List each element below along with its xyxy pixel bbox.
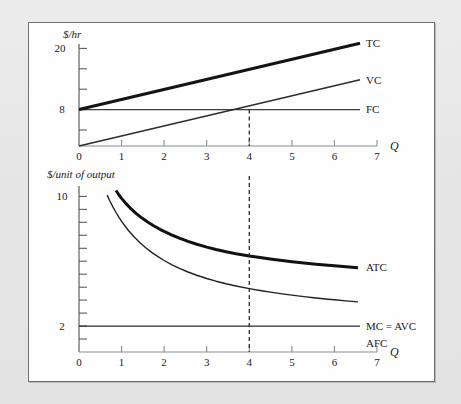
series-afc-curve bbox=[107, 195, 358, 302]
top-xtick-6: 6 bbox=[332, 150, 338, 162]
series-label-afc: AFC bbox=[366, 337, 387, 349]
cost-curves-figure: $/hr 20 8 0 1 2 3 4 bbox=[0, 0, 461, 404]
bottom-xtick-1: 1 bbox=[119, 356, 125, 368]
series-label-vc: VC bbox=[366, 74, 381, 86]
top-xtick-4: 4 bbox=[247, 150, 253, 162]
top-xtick-7: 7 bbox=[374, 150, 380, 162]
series-label-fc: FC bbox=[366, 103, 379, 115]
top-chart-y-ticks bbox=[79, 48, 87, 130]
bottom-chart-y-ticks bbox=[79, 196, 87, 339]
series-label-mc-avc: MC = AVC bbox=[366, 320, 416, 332]
top-xtick-3: 3 bbox=[204, 150, 210, 162]
series-label-tc: TC bbox=[366, 37, 380, 49]
bottom-xtick-5: 5 bbox=[289, 356, 295, 368]
bottom-chart-ytick-2: 2 bbox=[59, 320, 65, 332]
bottom-chart-xtick-labels: 0 1 2 3 4 5 6 7 bbox=[76, 356, 380, 368]
top-chart-ytick-8: 8 bbox=[59, 103, 65, 115]
bottom-chart-xlabel: Q bbox=[390, 345, 399, 359]
top-chart-xlabel: Q bbox=[390, 139, 399, 153]
bottom-xtick-2: 2 bbox=[161, 356, 167, 368]
top-xtick-2: 2 bbox=[161, 150, 167, 162]
bottom-xtick-7: 7 bbox=[374, 356, 380, 368]
bottom-xtick-6: 6 bbox=[332, 356, 338, 368]
series-vc-line bbox=[79, 80, 360, 146]
top-chart-xtick-labels: 0 1 2 3 4 5 6 7 bbox=[76, 150, 380, 162]
top-xtick-1: 1 bbox=[119, 150, 125, 162]
series-label-atc: ATC bbox=[366, 261, 387, 273]
bottom-xtick-0: 0 bbox=[76, 356, 82, 368]
top-xtick-5: 5 bbox=[289, 150, 295, 162]
chart-total-cost: $/hr 20 8 0 1 2 3 4 bbox=[55, 28, 400, 162]
bottom-chart-ytick-10: 10 bbox=[57, 190, 69, 202]
series-atc-curve bbox=[116, 191, 358, 268]
bottom-chart-ylabel: $/unit of output bbox=[47, 168, 116, 180]
chart-average-cost: $/unit of output 10 2 bbox=[47, 168, 416, 368]
bottom-xtick-3: 3 bbox=[204, 356, 210, 368]
bottom-xtick-4: 4 bbox=[247, 356, 253, 368]
top-xtick-0: 0 bbox=[76, 150, 82, 162]
series-tc-line bbox=[79, 43, 360, 109]
top-chart-ylabel: $/hr bbox=[63, 28, 82, 40]
top-chart-ytick-20: 20 bbox=[55, 42, 67, 54]
